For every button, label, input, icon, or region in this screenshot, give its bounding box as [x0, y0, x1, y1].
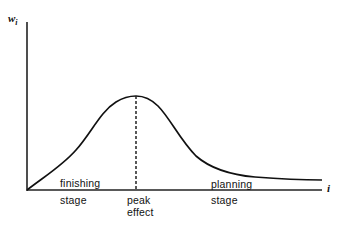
planning-stage-label: stage — [211, 194, 238, 206]
planning-label: planning — [211, 178, 252, 190]
response-curve — [27, 96, 322, 190]
diagram-canvas — [0, 0, 340, 225]
y-axis-label-subscript: i — [15, 18, 17, 27]
peak-label: peak — [127, 194, 151, 206]
effect-label: effect — [127, 206, 154, 218]
finishing-label: finishing — [60, 177, 100, 189]
y-axis-label: wi — [8, 12, 18, 27]
x-axis-label: i — [327, 182, 330, 194]
finishing-stage-label: stage — [60, 194, 87, 206]
